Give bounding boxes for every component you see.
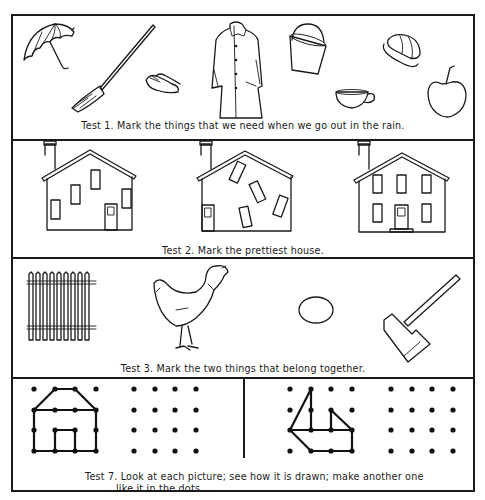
rain-hat-icon[interactable] (383, 35, 420, 67)
hen-icon[interactable] (154, 266, 228, 350)
test-7-section: Test 7. Look at each picture; see how it… (13, 379, 473, 492)
apple-icon[interactable] (428, 66, 466, 117)
boat-dot-drawing (287, 386, 354, 453)
test-7-caption-line-1: Test 7. Look at each picture; see how it… (85, 471, 424, 482)
worksheet-page: Test 1. Mark the things that we need whe… (11, 14, 475, 492)
house-dot-drawing (31, 386, 98, 453)
house-1-icon[interactable] (42, 141, 136, 230)
test-1-section: Test 1. Mark the things that we need whe… (13, 16, 473, 140)
test-2-caption: Test 2. Mark the prettiest house. (13, 245, 473, 256)
broom-icon[interactable] (72, 25, 155, 112)
umbrella-icon[interactable] (24, 24, 74, 69)
test-7-caption-line-2: like it in the dots. (85, 483, 424, 495)
test-2-section: Test 2. Mark the prettiest house. (13, 141, 473, 259)
test-7-caption: Test 7. Look at each picture; see how it… (85, 471, 424, 495)
fence-icon[interactable] (27, 272, 96, 340)
empty-dot-grid-2[interactable] (388, 386, 455, 453)
test-3-caption: Test 3. Mark the two things that belong … (13, 363, 473, 374)
house-2-icon[interactable] (197, 141, 293, 231)
hatchet-icon[interactable] (384, 275, 460, 362)
teacup-icon[interactable] (336, 90, 374, 109)
egg-icon[interactable] (299, 297, 333, 323)
test-3-pictures (13, 259, 473, 377)
rubbers-icon[interactable] (146, 74, 180, 93)
empty-dot-grid-1[interactable] (131, 386, 198, 453)
test-3-section: Test 3. Mark the two things that belong … (13, 259, 473, 377)
raincoat-icon[interactable] (212, 22, 262, 118)
test-1-caption: Test 1. Mark the things that we need whe… (13, 120, 473, 131)
test-2-pictures (13, 141, 473, 259)
house-3-icon[interactable] (354, 141, 449, 232)
pail-icon[interactable] (290, 24, 327, 74)
